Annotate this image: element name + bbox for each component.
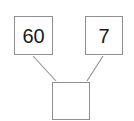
number-box-sum-empty[interactable]	[52, 82, 90, 120]
number-box-addend-left[interactable]: 60	[14, 16, 53, 55]
number-bond-diagram: 60 7	[0, 0, 134, 121]
number-box-addend-left-value: 60	[22, 26, 44, 46]
connector-left-line	[33, 56, 56, 81]
number-box-addend-right[interactable]: 7	[85, 16, 123, 55]
number-box-addend-right-value: 7	[98, 26, 109, 46]
connector-right-line	[87, 56, 103, 81]
